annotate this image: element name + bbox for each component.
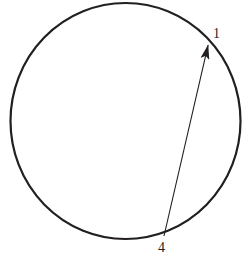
chord-arrow: [164, 45, 208, 236]
figure-canvas: 1 4: [0, 0, 251, 261]
endpoint-label-4: 4: [158, 241, 165, 255]
endpoint-label-1: 1: [213, 27, 220, 41]
circle-outline: [11, 3, 241, 239]
